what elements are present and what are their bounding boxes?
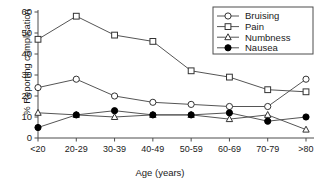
data-point (150, 99, 156, 105)
y-tick-label: 0 (27, 132, 32, 143)
chart-container: % Reporting complication Age (years) 010… (0, 0, 320, 180)
data-point (35, 36, 41, 42)
legend-label: Pain (245, 21, 264, 32)
y-tick-labels: 0102030405060 (21, 6, 32, 143)
data-point (73, 76, 79, 82)
line-chart-plot: 0102030405060 <2020-2930-3940-4950-5960-… (0, 0, 320, 180)
data-point (35, 124, 41, 130)
data-point (150, 112, 156, 118)
data-point (188, 112, 194, 118)
data-point (111, 108, 117, 114)
legend-marker (225, 45, 231, 51)
data-point (226, 103, 232, 109)
x-tick-label: 50-59 (180, 144, 203, 154)
y-tick-label: 60 (21, 6, 32, 17)
y-tick-label: 50 (21, 27, 32, 38)
data-point (35, 85, 41, 91)
x-tick-label: 40-49 (141, 144, 164, 154)
legend-label: Numbness (245, 32, 291, 43)
y-tick-label: 30 (21, 69, 32, 80)
data-point (226, 110, 232, 116)
x-tick-label: 60-69 (218, 144, 241, 154)
data-point (303, 114, 309, 120)
data-point (227, 74, 233, 80)
data-point (265, 118, 271, 124)
data-point (265, 87, 271, 93)
data-point (265, 103, 271, 109)
data-point (265, 112, 271, 118)
x-tick-label: <20 (30, 144, 45, 154)
x-tick-label: 70-79 (256, 144, 279, 154)
legend-label: Nausea (245, 42, 278, 53)
x-tick-labels: <2020-2930-3940-4950-5960-6970-79>80 (30, 144, 313, 154)
data-point (35, 109, 41, 115)
x-tick-label: 20-29 (65, 144, 88, 154)
legend-label: Bruising (245, 10, 279, 21)
y-tick-label: 10 (21, 111, 32, 122)
y-tick-label: 40 (21, 48, 32, 59)
x-tick-label: >80 (298, 144, 313, 154)
data-point (303, 76, 309, 82)
data-point (112, 32, 118, 38)
data-point (188, 68, 194, 74)
chart-legend: BruisingPainNumbnessNausea (213, 7, 313, 54)
data-point (111, 93, 117, 99)
data-point (188, 101, 194, 107)
data-point (73, 13, 79, 19)
y-tick-label: 20 (21, 90, 32, 101)
legend-marker (225, 24, 231, 30)
data-point (73, 112, 79, 118)
legend-marker (225, 13, 231, 19)
data-point (303, 89, 309, 95)
x-tick-label: 30-39 (103, 144, 126, 154)
data-point (150, 39, 156, 45)
